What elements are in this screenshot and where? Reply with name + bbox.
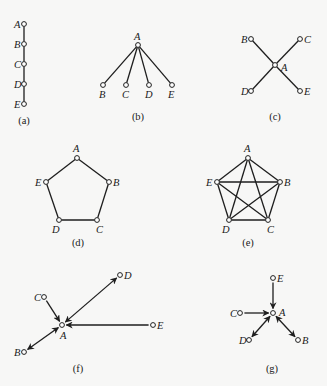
graph-panel-d: ABCDE(d): [34, 143, 120, 249]
graph-figure: ABCDE(a)ABCDE(b)ABCDE(c)ABCDE(d)ABCDE(e)…: [0, 0, 327, 386]
node-label-g-D: D: [238, 335, 247, 346]
node-label-g-A: A: [278, 307, 286, 318]
node-label-b-E: E: [167, 89, 175, 100]
node-a-A: [22, 22, 27, 27]
node-g-A: [271, 311, 276, 316]
node-label-b-A: A: [133, 31, 141, 42]
node-label-e-D: D: [221, 224, 230, 235]
node-a-B: [22, 42, 27, 47]
node-e-C: [266, 218, 271, 223]
node-e-B: [278, 180, 283, 185]
node-a-E: [22, 102, 27, 107]
node-label-f-A: A: [59, 330, 67, 341]
node-e-D: [227, 218, 232, 223]
edge-d-AB: [79, 159, 107, 180]
node-label-d-B: B: [113, 177, 120, 188]
graph-panel-b: ABCDE(b): [99, 31, 175, 123]
node-g-C: [238, 311, 243, 316]
node-d-A: [75, 156, 80, 161]
node-label-e-B: B: [284, 177, 291, 188]
node-f-E: [151, 323, 156, 328]
edge-c-AD: [253, 67, 274, 89]
caption-e: (e): [242, 237, 254, 249]
node-e-E: [215, 180, 220, 185]
node-d-C: [95, 218, 100, 223]
edge-b-AD: [139, 47, 149, 82]
node-a-C: [22, 62, 27, 67]
node-d-E: [44, 180, 49, 185]
node-c-B: [249, 37, 254, 42]
node-label-c-B: B: [241, 34, 248, 45]
caption-g: (g): [266, 363, 279, 375]
node-g-E: [271, 276, 276, 281]
node-f-C: [42, 295, 47, 300]
edge-c-AB: [253, 41, 274, 63]
node-label-d-E: E: [34, 177, 42, 188]
caption-d: (d): [72, 237, 85, 249]
graph-panel-c: ABCDE(c): [240, 34, 312, 123]
edge-b-AE: [140, 47, 171, 83]
caption-c: (c): [269, 111, 281, 123]
node-label-f-C: C: [34, 292, 42, 303]
node-label-d-A: A: [72, 143, 80, 154]
node-label-c-E: E: [303, 86, 311, 97]
edge-f-AD: [65, 278, 116, 322]
edge-d-BC: [98, 184, 109, 217]
node-label-a-E: E: [13, 99, 21, 110]
node-g-D: [247, 338, 252, 343]
graph-panel-g: ABCDE(g): [230, 273, 309, 375]
node-label-e-E: E: [205, 177, 213, 188]
node-b-A: [136, 43, 141, 48]
node-label-g-B: B: [302, 335, 309, 346]
node-label-f-D: D: [123, 270, 132, 281]
graph-panel-f: ABCDE(f): [14, 270, 164, 375]
node-d-D: [57, 218, 62, 223]
node-label-e-A: A: [243, 143, 251, 154]
node-label-g-E: E: [276, 273, 284, 284]
caption-b: (b): [132, 111, 145, 123]
node-b-E: [170, 83, 175, 88]
node-label-g-C: C: [230, 308, 238, 319]
node-label-e-C: C: [267, 224, 275, 235]
node-label-d-D: D: [51, 224, 60, 235]
edge-f-AB: [28, 328, 59, 350]
node-label-c-D: D: [240, 86, 249, 97]
edge-g-AB: [276, 316, 295, 337]
node-e-A: [246, 156, 251, 161]
node-label-b-B: B: [99, 89, 106, 100]
edge-e-AC: [249, 160, 268, 217]
node-label-a-B: B: [14, 39, 21, 50]
caption-a: (a): [18, 115, 30, 127]
node-label-c-C: C: [304, 34, 312, 45]
node-label-b-C: C: [122, 89, 130, 100]
node-label-d-C: C: [96, 224, 104, 235]
node-f-A: [60, 323, 65, 328]
node-label-a-D: D: [13, 79, 22, 90]
node-d-B: [107, 180, 112, 185]
node-a-D: [22, 82, 27, 87]
edge-c-AE: [277, 67, 299, 90]
node-b-C: [124, 83, 129, 88]
node-f-D: [118, 273, 123, 278]
node-c-A: [273, 63, 278, 68]
node-label-b-D: D: [144, 89, 153, 100]
graph-panel-a: ABCDE(a): [13, 19, 30, 127]
edge-e-CE: [219, 183, 266, 218]
node-label-f-E: E: [156, 320, 164, 331]
caption-f: (f): [73, 363, 84, 375]
node-c-C: [298, 37, 303, 42]
edge-c-AC: [277, 41, 299, 64]
node-g-B: [296, 338, 301, 343]
node-label-a-A: A: [13, 19, 21, 30]
node-c-E: [298, 89, 303, 94]
node-label-c-A: A: [280, 62, 288, 73]
node-label-f-B: B: [14, 347, 21, 358]
node-label-a-C: C: [14, 59, 22, 70]
node-f-B: [22, 350, 27, 355]
node-c-D: [249, 89, 254, 94]
panels-container: ABCDE(a)ABCDE(b)ABCDE(c)ABCDE(d)ABCDE(e)…: [13, 19, 312, 375]
node-b-B: [101, 83, 106, 88]
edge-g-AD: [252, 316, 270, 336]
node-b-D: [147, 83, 152, 88]
edge-d-DE: [47, 184, 58, 217]
